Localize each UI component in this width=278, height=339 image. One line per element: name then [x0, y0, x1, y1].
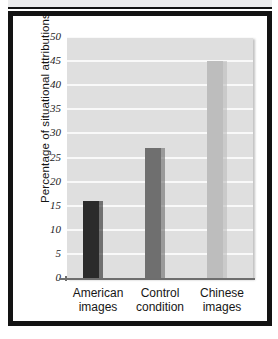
y-tick-label: 40	[27, 79, 61, 90]
y-tick-label: 35	[27, 103, 61, 114]
x-category-label-line2: images	[179, 300, 265, 314]
y-tick-label: 10	[27, 224, 61, 235]
bar	[207, 61, 227, 278]
figure-root: Percentage of situational attributions 0…	[0, 0, 278, 339]
x-category-label: Chineseimages	[179, 286, 265, 314]
gridline	[67, 37, 253, 38]
bar-shadow	[99, 201, 103, 278]
y-tick-label: 30	[27, 127, 61, 138]
bar-shadow	[223, 61, 227, 278]
bar-body	[83, 201, 99, 278]
bar-shadow	[161, 148, 165, 278]
figure-inner: Percentage of situational attributions 0…	[13, 16, 267, 321]
top-strip	[8, 0, 272, 9]
plot-area	[67, 37, 253, 278]
y-axis-origin-tick	[65, 276, 67, 281]
y-tick-label: 20	[27, 176, 61, 187]
bar-body	[145, 148, 161, 278]
x-category-label-line1: Control	[141, 286, 180, 300]
y-tick-label: 25	[27, 152, 61, 163]
y-tick-label: 15	[27, 200, 61, 211]
x-axis-line	[59, 278, 255, 280]
bar	[83, 201, 103, 278]
y-tick-label: 45	[27, 55, 61, 66]
bar	[145, 148, 165, 278]
y-tick-label: 5	[27, 248, 61, 259]
x-category-label-line1: American	[73, 286, 124, 300]
y-tick-label: 0	[27, 272, 61, 283]
y-tick-label: 50	[27, 31, 61, 42]
bar-body	[207, 61, 223, 278]
x-category-label-line1: Chinese	[200, 286, 244, 300]
figure-frame: Percentage of situational attributions 0…	[8, 11, 272, 326]
